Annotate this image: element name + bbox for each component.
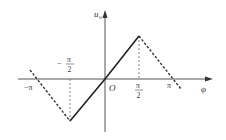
dashed-waveform-left	[30, 70, 70, 121]
tick-half-pi-num: π	[136, 81, 140, 90]
diagram-svg: u o φ O −π − π 2 π 2 π	[0, 0, 226, 140]
tick-pi: π	[167, 81, 171, 90]
x-axis-label: φ	[201, 84, 206, 94]
tick-neg-half-pi-num: π	[67, 55, 71, 64]
y-axis-subscript: o	[99, 14, 102, 20]
tick-half-pi-den: 2	[137, 91, 141, 100]
waveform-diagram: u o φ O −π − π 2 π 2 π	[0, 0, 226, 140]
x-axis-arrow-icon	[205, 77, 213, 82]
y-axis-arrow-icon	[103, 10, 108, 18]
dashed-waveform-right	[139, 36, 181, 89]
tick-neg-half-pi-minus: −	[57, 59, 62, 68]
tick-neg-half-pi-den: 2	[68, 65, 72, 74]
tick-neg-pi: −π	[24, 83, 33, 92]
origin-label: O	[109, 83, 116, 93]
